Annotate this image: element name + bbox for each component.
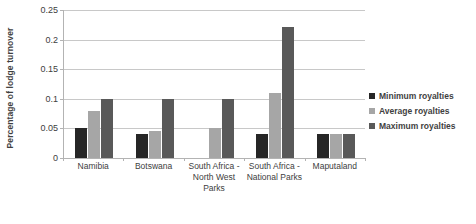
- legend-item: Maximum royalties: [369, 118, 475, 133]
- x-axis-category-label-line: Parks: [184, 183, 244, 194]
- legend-item: Average royalties: [369, 103, 475, 118]
- bars-layer: [64, 10, 365, 158]
- x-axis-tick-mark: [365, 158, 366, 161]
- bar: [162, 99, 174, 158]
- plot-area: [63, 10, 365, 158]
- bar-chart: Percentage of lodge turnover 0.250.20.15…: [0, 0, 476, 224]
- bar-group: [245, 10, 305, 158]
- bar: [209, 128, 221, 158]
- bar: [343, 134, 355, 158]
- x-axis-category-label-line: North West: [184, 172, 244, 183]
- bar-group: [124, 10, 184, 158]
- legend-swatch-icon: [369, 93, 375, 99]
- x-axis-category-labels: NamibiaBotswanaSouth Africa -North WestP…: [63, 161, 365, 221]
- bar: [256, 134, 268, 158]
- gridline: [64, 158, 365, 159]
- bar: [149, 131, 161, 158]
- x-axis-category-label: Namibia: [63, 161, 123, 172]
- bar: [317, 134, 329, 158]
- y-axis-tick-label: 0.05: [40, 123, 58, 133]
- x-axis-category-label-line: South Africa -: [244, 161, 304, 172]
- bar: [136, 134, 148, 158]
- y-axis-tick-label: 0.1: [45, 94, 58, 104]
- y-axis-tick-labels: 0.250.20.150.10.050: [18, 10, 62, 158]
- bar: [330, 134, 342, 158]
- x-axis-category-label: Maputaland: [305, 161, 365, 172]
- x-axis-category-label: South Africa -North WestParks: [184, 161, 244, 194]
- bar: [282, 27, 294, 158]
- bar: [75, 128, 87, 158]
- x-axis-category-label-line: Botswana: [123, 161, 183, 172]
- bar-group: [64, 10, 124, 158]
- legend-item-label: Average royalties: [379, 106, 450, 116]
- x-axis-category-label-line: Namibia: [63, 161, 123, 172]
- bar: [88, 111, 100, 158]
- legend-item: Minimum royalties: [369, 88, 475, 103]
- legend-item-label: Maximum royalties: [379, 121, 456, 131]
- bar-group: [185, 10, 245, 158]
- y-axis-title-text: Percentage of lodge turnover: [5, 28, 15, 149]
- legend-swatch-icon: [369, 123, 375, 129]
- x-axis-category-label: South Africa -National Parks: [244, 161, 304, 183]
- y-axis-tick-label: 0: [53, 153, 58, 163]
- y-axis-title: Percentage of lodge turnover: [2, 0, 18, 176]
- x-axis-category-label-line: National Parks: [244, 172, 304, 183]
- y-axis-tick-label: 0.15: [40, 64, 58, 74]
- bar: [269, 93, 281, 158]
- x-axis-category-label-line: Maputaland: [305, 161, 365, 172]
- chart-legend: Minimum royaltiesAverage royaltiesMaximu…: [369, 88, 475, 133]
- y-axis-tick-label: 0.2: [45, 35, 58, 45]
- legend-swatch-icon: [369, 108, 375, 114]
- y-axis-tick-label: 0.25: [40, 5, 58, 15]
- bar: [222, 99, 234, 158]
- x-axis-category-label-line: South Africa -: [184, 161, 244, 172]
- legend-item-label: Minimum royalties: [379, 91, 454, 101]
- x-axis-category-label: Botswana: [123, 161, 183, 172]
- bar-group: [306, 10, 366, 158]
- bar: [101, 99, 113, 158]
